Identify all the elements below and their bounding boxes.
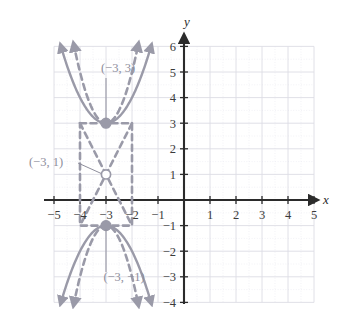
x-tick-label: 3 bbox=[259, 208, 265, 222]
y-tick-label: −3 bbox=[163, 270, 176, 284]
annotation-upper-vertex: (−3, 3) bbox=[101, 61, 135, 75]
annotation-lower-vertex: (−3, −1) bbox=[103, 270, 144, 284]
filled-vertex-marker bbox=[101, 118, 111, 128]
x-tick-label: 2 bbox=[233, 208, 239, 222]
y-tick-label: 2 bbox=[170, 142, 176, 156]
y-tick-label: 6 bbox=[170, 40, 176, 54]
x-tick-label: −5 bbox=[47, 208, 60, 222]
y-tick-label: −4 bbox=[163, 296, 177, 310]
y-tick-label: 3 bbox=[170, 117, 176, 131]
y-tick-label: 5 bbox=[170, 66, 176, 80]
y-tick-label: −2 bbox=[163, 245, 176, 259]
y-axis-label: y bbox=[182, 14, 190, 29]
x-tick-label: −2 bbox=[125, 208, 138, 222]
y-tick-label: −1 bbox=[163, 219, 176, 233]
graph-figure: −5−4−3−2−112345 654321−1−2−3−4 x y (−3, … bbox=[0, 0, 340, 319]
x-tick-label: −3 bbox=[99, 208, 112, 222]
x-tick-label: 1 bbox=[207, 208, 213, 222]
x-axis-label: x bbox=[322, 192, 329, 207]
x-tick-label: −4 bbox=[73, 208, 87, 222]
x-tick-label: 4 bbox=[285, 208, 292, 222]
open-point-marker bbox=[101, 170, 110, 179]
annotation-open-point: (−3, 1) bbox=[29, 155, 63, 169]
filled-vertex-marker bbox=[101, 221, 111, 231]
x-tick-label: 5 bbox=[311, 208, 317, 222]
y-tick-label: 4 bbox=[170, 91, 177, 105]
y-tick-label: 1 bbox=[170, 168, 176, 182]
coordinate-plane-svg: −5−4−3−2−112345 654321−1−2−3−4 x y (−3, … bbox=[0, 0, 340, 319]
